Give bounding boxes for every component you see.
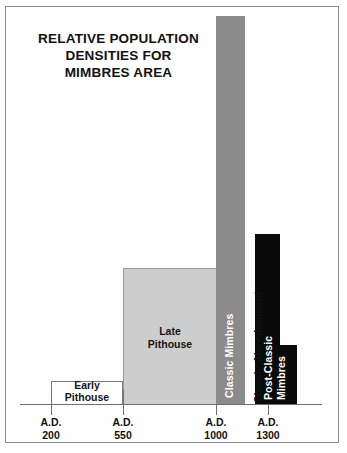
chart-screenshot: RELATIVE POPULATION DENSITIES FOR MIMBRE… (0, 0, 347, 453)
x-axis-label-3-line-2: 1000 (186, 429, 246, 442)
x-axis-label-2-line-1: A.D. (93, 416, 153, 429)
x-axis-tick-4 (268, 404, 269, 415)
bar-label-early-pithouse: Early Pithouse (46, 379, 128, 403)
x-axis-tick-1 (51, 390, 52, 415)
bar-label-classic-mimbres: Classic Mimbres (223, 314, 235, 398)
x-axis-label-4: A.D. 1300 (238, 416, 298, 442)
chart-title: RELATIVE POPULATION DENSITIES FOR MIMBRE… (16, 30, 221, 81)
x-axis-label-4-line-2: 1300 (238, 429, 298, 442)
chart-title-line-3: MIMBRES AREA (16, 64, 221, 81)
bar-label-early-pithouse-line-2: Pithouse (46, 391, 128, 403)
bar-label-early-pithouse-line-1: Early (46, 379, 128, 391)
x-axis-label-1: A.D. 200 (21, 416, 81, 442)
x-axis-tick-3 (216, 404, 217, 415)
x-axis-label-1-line-2: 200 (21, 429, 81, 442)
chart-plot-area: RELATIVE POPULATION DENSITIES FOR MIMBRE… (0, 0, 347, 453)
x-axis-label-2: A.D. 550 (93, 416, 153, 442)
x-axis-label-1-line-1: A.D. (21, 416, 81, 429)
x-axis-label-2-line-2: 550 (93, 429, 153, 442)
bar-label-late-pithouse: Late Pithouse (126, 325, 214, 351)
x-axis-tick-2 (123, 390, 124, 415)
x-axis-label-3-line-1: A.D. (186, 416, 246, 429)
bar-label-post-classic-mimbres-line-1: Post-Classic (262, 336, 274, 400)
chart-title-line-2: DENSITIES FOR (16, 47, 221, 64)
bar-label-late-pithouse-line-1: Late (126, 325, 214, 338)
bar-label-late-pithouse-line-2: Pithouse (126, 338, 214, 351)
x-axis-label-4-line-1: A.D. (238, 416, 298, 429)
chart-title-line-1: RELATIVE POPULATION (16, 30, 221, 47)
bar-label-post-classic-mimbres-line-2: Mimbres (275, 356, 287, 400)
x-axis-label-3: A.D. 1000 (186, 416, 246, 442)
x-axis-baseline (20, 404, 322, 405)
